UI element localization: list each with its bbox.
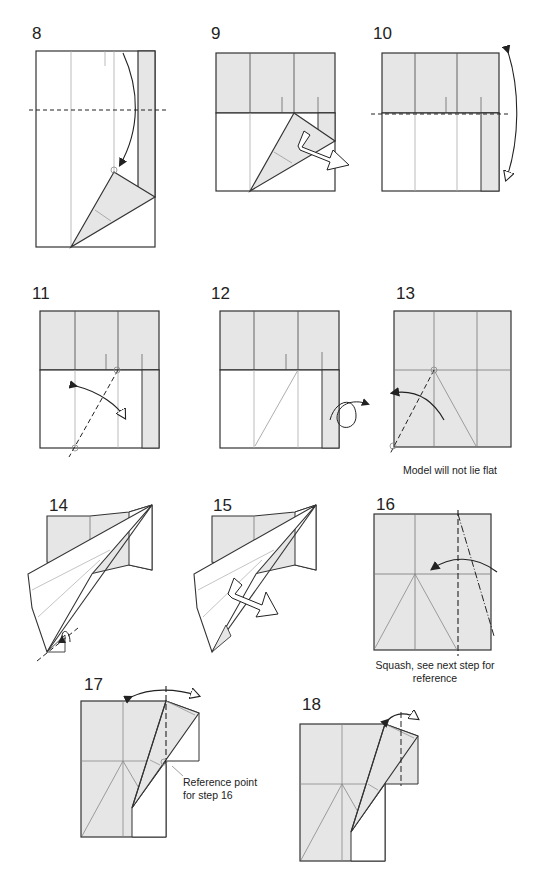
origami-diagram (0, 0, 536, 881)
step-8-diagram (29, 51, 168, 247)
step-13-diagram (390, 311, 511, 454)
step-9-diagram (216, 53, 349, 191)
step-12-diagram (220, 311, 368, 448)
step-18-diagram (300, 712, 418, 861)
step-17-diagram (81, 686, 199, 837)
step-14-diagram (28, 505, 152, 661)
step-11-diagram (40, 311, 159, 457)
step-16-diagram (374, 510, 497, 656)
step-10-diagram (371, 52, 517, 191)
step-15-diagram (194, 505, 316, 652)
